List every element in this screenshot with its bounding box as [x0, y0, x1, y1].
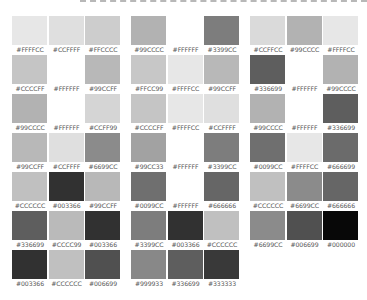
- color-swatch[interactable]: [131, 16, 166, 45]
- color-swatch[interactable]: [287, 94, 322, 123]
- color-cell[interactable]: #3399CC: [204, 16, 240, 45]
- color-swatch[interactable]: [168, 55, 203, 84]
- color-cell[interactable]: #FFFFFF: [49, 94, 85, 123]
- color-swatch[interactable]: [168, 172, 203, 201]
- color-cell[interactable]: #FFFFFF: [49, 55, 85, 84]
- color-cell[interactable]: #FFCCCC: [85, 16, 121, 45]
- color-swatch[interactable]: [131, 94, 166, 123]
- color-swatch[interactable]: [323, 211, 358, 240]
- color-swatch[interactable]: [49, 94, 84, 123]
- color-cell[interactable]: #006699: [287, 211, 323, 240]
- color-cell[interactable]: #CCCCFF: [12, 55, 48, 84]
- color-swatch[interactable]: [204, 172, 239, 201]
- color-cell[interactable]: #FFFFFF: [287, 55, 323, 84]
- color-swatch[interactable]: [12, 94, 47, 123]
- color-cell[interactable]: #666699: [323, 133, 359, 162]
- color-swatch[interactable]: [85, 211, 120, 240]
- color-swatch[interactable]: [250, 211, 285, 240]
- color-cell[interactable]: #99CCCC: [131, 16, 167, 45]
- color-swatch[interactable]: [323, 133, 358, 162]
- color-cell[interactable]: #CCFFFF: [204, 94, 240, 123]
- color-cell[interactable]: #999933: [131, 250, 167, 279]
- color-cell[interactable]: #0099CC: [250, 133, 286, 162]
- color-swatch[interactable]: [12, 55, 47, 84]
- color-cell[interactable]: #FFCC99: [131, 55, 167, 84]
- color-cell[interactable]: #99CC33: [131, 133, 167, 162]
- color-swatch[interactable]: [85, 94, 120, 123]
- color-cell[interactable]: #CCCCCC: [204, 211, 240, 240]
- color-cell[interactable]: #6699CC: [85, 133, 121, 162]
- color-cell[interactable]: #CCCCCC: [12, 172, 48, 201]
- color-cell[interactable]: #CCCCCC: [250, 172, 286, 201]
- color-cell[interactable]: #336699: [323, 94, 359, 123]
- color-cell[interactable]: #FFFFFF: [168, 16, 204, 45]
- color-cell[interactable]: #99CCCC: [250, 94, 286, 123]
- color-swatch[interactable]: [12, 133, 47, 162]
- color-cell[interactable]: #CCFFFF: [49, 16, 85, 45]
- color-cell[interactable]: #003366: [12, 250, 48, 279]
- color-swatch[interactable]: [49, 250, 84, 279]
- color-cell[interactable]: #99CCFF: [204, 55, 240, 84]
- color-cell[interactable]: #6699CC: [250, 211, 286, 240]
- color-swatch[interactable]: [250, 172, 285, 201]
- color-cell[interactable]: #336699: [168, 250, 204, 279]
- color-cell[interactable]: #99CCCC: [287, 16, 323, 45]
- color-cell[interactable]: #006699: [85, 250, 121, 279]
- color-swatch[interactable]: [168, 133, 203, 162]
- color-swatch[interactable]: [85, 55, 120, 84]
- color-cell[interactable]: #99CCCC: [323, 55, 359, 84]
- color-cell[interactable]: #0099CC: [131, 172, 167, 201]
- color-cell[interactable]: #99CCCC: [12, 94, 48, 123]
- color-cell[interactable]: #FFFFCC: [168, 94, 204, 123]
- color-cell[interactable]: #336699: [12, 211, 48, 240]
- color-swatch[interactable]: [287, 55, 322, 84]
- color-cell[interactable]: #FFFFCC: [287, 133, 323, 162]
- color-cell[interactable]: #CCCCFF: [131, 94, 167, 123]
- color-swatch[interactable]: [12, 250, 47, 279]
- color-swatch[interactable]: [131, 250, 166, 279]
- color-swatch[interactable]: [323, 172, 358, 201]
- color-swatch[interactable]: [12, 211, 47, 240]
- color-swatch[interactable]: [12, 172, 47, 201]
- color-cell[interactable]: #FFFFCC: [323, 16, 359, 45]
- color-swatch[interactable]: [250, 16, 285, 45]
- color-cell[interactable]: #CCFFFF: [49, 133, 85, 162]
- color-swatch[interactable]: [250, 94, 285, 123]
- color-swatch[interactable]: [204, 94, 239, 123]
- color-swatch[interactable]: [323, 16, 358, 45]
- color-swatch[interactable]: [204, 133, 239, 162]
- color-cell[interactable]: #3399CC: [204, 133, 240, 162]
- color-cell[interactable]: #666666: [323, 172, 359, 201]
- color-swatch[interactable]: [85, 172, 120, 201]
- color-cell[interactable]: #003366: [85, 211, 121, 240]
- color-swatch[interactable]: [49, 133, 84, 162]
- color-swatch[interactable]: [204, 55, 239, 84]
- color-swatch[interactable]: [85, 250, 120, 279]
- color-swatch[interactable]: [131, 55, 166, 84]
- color-cell[interactable]: #CCFF99: [85, 94, 121, 123]
- color-cell[interactable]: #003366: [49, 172, 85, 201]
- color-cell[interactable]: #99CCFF: [12, 133, 48, 162]
- color-swatch[interactable]: [131, 133, 166, 162]
- color-cell[interactable]: #003366: [168, 211, 204, 240]
- color-cell[interactable]: #000000: [323, 211, 359, 240]
- color-swatch[interactable]: [287, 211, 322, 240]
- color-swatch[interactable]: [168, 250, 203, 279]
- color-swatch[interactable]: [287, 172, 322, 201]
- color-swatch[interactable]: [323, 55, 358, 84]
- color-swatch[interactable]: [250, 133, 285, 162]
- color-cell[interactable]: #CCCCCC: [49, 250, 85, 279]
- color-swatch[interactable]: [168, 16, 203, 45]
- color-swatch[interactable]: [49, 211, 84, 240]
- color-swatch[interactable]: [49, 55, 84, 84]
- color-cell[interactable]: #99CCFF: [85, 172, 121, 201]
- color-swatch[interactable]: [287, 16, 322, 45]
- color-cell[interactable]: #FFFFCC: [168, 55, 204, 84]
- color-swatch[interactable]: [12, 16, 47, 45]
- color-swatch[interactable]: [131, 172, 166, 201]
- color-swatch[interactable]: [287, 133, 322, 162]
- color-swatch[interactable]: [204, 16, 239, 45]
- color-cell[interactable]: #FFFFFF: [168, 133, 204, 162]
- color-swatch[interactable]: [85, 133, 120, 162]
- color-cell[interactable]: #333333: [204, 250, 240, 279]
